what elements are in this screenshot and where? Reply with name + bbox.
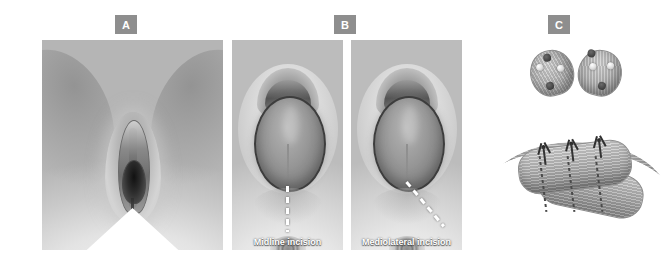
suture-knot — [535, 141, 554, 165]
stump-marker — [556, 64, 564, 72]
stump-lumen — [597, 81, 607, 91]
panel-b-midline-view: Midline incision — [232, 40, 343, 250]
perineal-body — [372, 188, 442, 224]
stump-lumen — [587, 49, 597, 59]
panel-b-mediolateral-view: Mediolateral incision — [351, 40, 462, 250]
stump-marker — [589, 62, 597, 70]
suture-knot — [590, 134, 609, 158]
medical-figure: A B C Midline incision — [0, 0, 672, 266]
panel-a-perineal-anatomy — [42, 40, 223, 250]
suture-tail — [570, 143, 574, 161]
stump-marker — [536, 63, 544, 71]
stump-lumen — [542, 53, 552, 63]
panel-c-sphincter-repair — [480, 34, 672, 258]
head-highlight — [402, 106, 418, 144]
perineal-seam — [287, 144, 289, 184]
panel-label-c: C — [548, 15, 570, 34]
midline-incision-label: Midline incision — [254, 237, 322, 247]
suture-knot — [563, 138, 582, 162]
head-highlight — [283, 106, 299, 144]
suture-tail — [598, 140, 602, 158]
panel-label-a: A — [115, 15, 137, 34]
suture-tail — [542, 147, 546, 165]
divided-sphincter-ring — [488, 38, 664, 144]
perineal-seam — [406, 144, 408, 184]
midline-incision-dashed-line — [286, 186, 289, 232]
stump-marker — [606, 62, 614, 70]
panel-label-b: B — [334, 15, 356, 34]
mediolateral-incision-label: Mediolateral incision — [362, 237, 451, 247]
stump-lumen — [545, 81, 555, 91]
overlapping-sphincter-repair — [484, 142, 668, 254]
